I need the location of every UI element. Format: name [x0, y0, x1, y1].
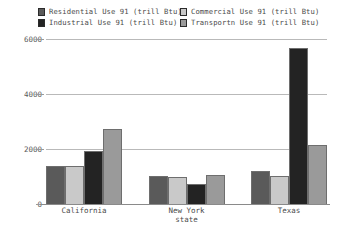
legend-label-industrial: Industrial Use 91 (trill Btu): [49, 17, 177, 28]
y-axis-tick-mark: [36, 39, 44, 40]
y-axis-tick-mark: [36, 149, 44, 150]
bar: [46, 166, 65, 204]
y-axis: 0200040006000: [0, 33, 42, 204]
bar: [65, 166, 84, 204]
bar-groups: [46, 33, 327, 204]
legend-item-transportation: Transportn Use 91 (trill Btu): [180, 17, 322, 28]
y-axis-tick-mark: [36, 94, 44, 95]
x-axis-line: [40, 204, 330, 205]
bar: [308, 145, 327, 204]
legend-swatch-transportation-icon: [180, 19, 187, 27]
bar: [251, 171, 270, 204]
bar-group: [149, 33, 225, 204]
bar: [84, 151, 103, 205]
bar: [206, 175, 225, 204]
x-axis-title: state: [46, 215, 327, 224]
bar: [149, 176, 168, 204]
bar-group: [251, 33, 327, 204]
bar-group: [46, 33, 122, 204]
legend-item-commercial: Commercial Use 91 (trill Btu): [180, 6, 322, 17]
legend-label-residential: Residential Use 91 (trill Btu): [49, 6, 182, 17]
bar-chart: Residential Use 91 (trill Btu) Commercia…: [0, 0, 341, 231]
legend-swatch-residential-icon: [38, 8, 45, 16]
bar: [103, 129, 122, 204]
bar: [270, 176, 289, 204]
legend-swatch-commercial-icon: [180, 8, 187, 16]
legend-label-commercial: Commercial Use 91 (trill Btu): [191, 6, 319, 17]
legend-swatch-industrial-icon: [38, 19, 45, 27]
bar: [289, 48, 308, 204]
legend-item-industrial: Industrial Use 91 (trill Btu): [38, 17, 180, 28]
bar: [168, 177, 187, 204]
legend-item-residential: Residential Use 91 (trill Btu): [38, 6, 180, 17]
chart-legend: Residential Use 91 (trill Btu) Commercia…: [38, 6, 308, 28]
legend-label-transportation: Transportn Use 91 (trill Btu): [191, 17, 319, 28]
bar: [187, 184, 206, 204]
